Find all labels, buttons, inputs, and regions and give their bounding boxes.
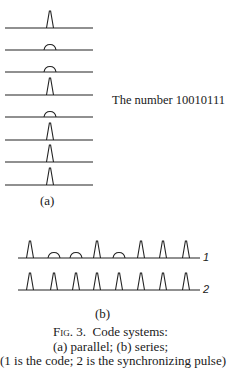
figure-caption-title: Fig. 3. Code systems: xyxy=(0,324,221,340)
pulse-one-icon xyxy=(160,273,167,290)
subfigure-b-label: (b) xyxy=(95,306,110,322)
figure-title: Code systems: xyxy=(93,324,168,339)
subfigure-a-label: (a) xyxy=(40,193,54,209)
pulse-zero-icon xyxy=(44,112,56,118)
pulse-one-icon xyxy=(47,123,54,140)
figure-number: Fig. 3. xyxy=(53,324,86,339)
pulse-one-icon xyxy=(27,273,34,290)
pulse-one-icon xyxy=(138,241,145,258)
series-line-2-tag: 2 xyxy=(203,283,209,295)
pulse-one-icon xyxy=(27,241,34,258)
pulse-zero-icon xyxy=(113,253,125,259)
pulse-zero-icon xyxy=(44,67,56,73)
pulse-one-icon xyxy=(138,273,145,290)
series-line-1-tag: 1 xyxy=(203,251,209,263)
pulse-one-icon xyxy=(47,168,54,185)
pulse-one-icon xyxy=(51,273,58,290)
pulse-one-icon xyxy=(116,273,123,290)
pulse-one-icon xyxy=(160,241,167,258)
pulse-one-icon xyxy=(47,11,54,28)
pulse-one-icon xyxy=(183,241,190,258)
pulse-one-icon xyxy=(94,241,101,258)
pulse-one-icon xyxy=(183,273,190,290)
number-label: The number 10010111 xyxy=(112,93,225,108)
pulse-one-icon xyxy=(94,273,101,290)
pulse-zero-icon xyxy=(48,253,60,259)
pulse-zero-icon xyxy=(70,253,82,259)
pulse-one-icon xyxy=(73,273,80,290)
pulse-zero-icon xyxy=(44,45,56,51)
pulse-one-icon xyxy=(47,78,54,95)
pulse-one-icon xyxy=(47,145,54,162)
figure-caption-line-3: (1 is the code; 2 is the synchronizing p… xyxy=(0,353,221,369)
